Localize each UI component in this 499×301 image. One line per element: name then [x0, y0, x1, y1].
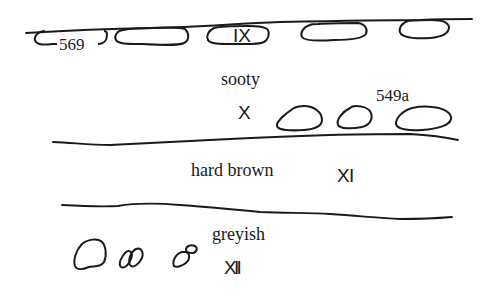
boundary-line-3 [62, 204, 452, 219]
context-label-569: 569 [59, 35, 85, 54]
stone-xii-1 [74, 240, 105, 270]
stone-top-4 [301, 23, 366, 41]
stone-xii-3 [173, 252, 189, 267]
layer-label-x: X [238, 102, 251, 123]
stone-x-2 [338, 106, 372, 128]
boundary-line-2 [53, 134, 458, 145]
stone-top-2 [115, 28, 188, 45]
stone-x-1 [277, 106, 322, 130]
layer-label-xi: X I [337, 165, 353, 186]
layer-description-sooty: sooty [221, 69, 260, 89]
layer-description-hard-brown: hard brown [191, 160, 273, 180]
stone-top-5 [400, 20, 449, 38]
layer-description-greyish: greyish [212, 224, 265, 244]
layer-label-xii: X I I [224, 257, 241, 278]
stone-569-right-edge [98, 31, 107, 44]
stone-xii-3-small [186, 245, 197, 253]
stratigraphy-diagram: 569 IX sooty X 549a hard brown X I greyi… [0, 0, 499, 301]
context-label-549a: 549a [376, 86, 410, 105]
layer-label-ix: IX [233, 25, 251, 46]
stone-569 [35, 31, 57, 45]
stone-549a [396, 107, 451, 131]
